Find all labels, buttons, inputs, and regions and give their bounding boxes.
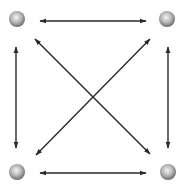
edges — [16, 21, 168, 173]
node-bottom-right — [160, 164, 176, 180]
node-bottom-left — [9, 164, 25, 180]
nodes — [9, 11, 176, 180]
node-top-left — [9, 11, 25, 27]
network-diagram — [0, 0, 188, 191]
node-top-right — [159, 11, 175, 27]
